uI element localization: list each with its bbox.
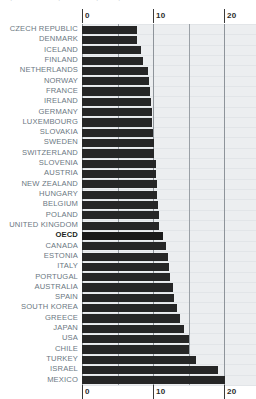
bar[interactable]	[82, 232, 163, 240]
category-label: LUXEMBOURG	[0, 117, 78, 127]
axis-tick-0: 0	[82, 9, 90, 23]
bar[interactable]	[82, 201, 158, 209]
category-label: OECD	[0, 230, 78, 240]
bar[interactable]	[82, 294, 174, 302]
category-label: USA	[0, 333, 78, 343]
category-label: JAPAN	[0, 323, 78, 333]
bar[interactable]	[82, 366, 218, 374]
bar[interactable]	[82, 356, 196, 364]
bar[interactable]	[82, 77, 149, 85]
category-label: SLOVAKIA	[0, 127, 78, 137]
bar[interactable]	[82, 335, 189, 343]
category-label: ESTONIA	[0, 251, 78, 261]
bar[interactable]	[82, 149, 154, 157]
category-label: FINLAND	[0, 55, 78, 65]
bar[interactable]	[82, 26, 137, 34]
category-label: DENMARK	[0, 34, 78, 44]
category-label: ITALY	[0, 261, 78, 271]
category-label: BELGIUM	[0, 199, 78, 209]
axis-tick-20: 20	[224, 385, 236, 399]
bar[interactable]	[82, 67, 148, 75]
category-label: SLOVENIA	[0, 158, 78, 168]
category-label: IRELAND	[0, 96, 78, 106]
bar[interactable]	[82, 87, 150, 95]
bar[interactable]	[82, 304, 177, 312]
bar[interactable]	[82, 98, 151, 106]
category-label: FRANCE	[0, 86, 78, 96]
bar[interactable]	[82, 314, 180, 322]
bar[interactable]	[82, 325, 184, 333]
axis-tick-0: 0	[82, 385, 90, 399]
axis-tick-10: 10	[153, 9, 165, 23]
category-label: PORTUGAL	[0, 272, 78, 282]
category-label: AUSTRALIA	[0, 282, 78, 292]
category-label: AUSTRIA	[0, 168, 78, 178]
bar-rows: CZECH REPUBLICDENMARKICELANDFINLANDNETHE…	[0, 24, 256, 385]
category-label: HUNGARY	[0, 189, 78, 199]
bar[interactable]	[82, 118, 152, 126]
bar[interactable]	[82, 345, 189, 353]
bar[interactable]	[82, 253, 168, 261]
bar[interactable]	[82, 222, 159, 230]
category-label: NETHERLANDS	[0, 65, 78, 75]
category-label: CZECH REPUBLIC	[0, 24, 78, 34]
bar[interactable]	[82, 191, 157, 199]
axis-tick-10: 10	[153, 385, 165, 399]
category-label: CHILE	[0, 344, 78, 354]
category-label: MEXICO	[0, 375, 78, 385]
bar[interactable]	[82, 263, 169, 271]
category-label: SOUTH KOREA	[0, 302, 78, 312]
bar[interactable]	[82, 57, 143, 65]
category-label: CANADA	[0, 241, 78, 251]
category-label: SPAIN	[0, 292, 78, 302]
title-fragment-1: ·	[10, 0, 13, 4]
category-label: ICELAND	[0, 45, 78, 55]
bar[interactable]	[82, 129, 153, 137]
bar[interactable]	[82, 46, 141, 54]
bar-chart: · · · · 01020 CZECH REPUBLICDENMARKICELA…	[0, 0, 256, 399]
axis-bottom: 01020	[0, 385, 256, 399]
bar[interactable]	[82, 273, 170, 281]
category-label: UNITED KINGDOM	[0, 220, 78, 230]
axis-top: 01020	[0, 9, 256, 24]
bar[interactable]	[82, 283, 173, 291]
axis-tick-20: 20	[224, 9, 236, 23]
bar[interactable]	[82, 160, 156, 168]
bar[interactable]	[82, 139, 154, 147]
category-label: SWITZERLAND	[0, 148, 78, 158]
title-fragment-2: ·	[58, 0, 61, 4]
category-label: GREECE	[0, 313, 78, 323]
cropped-title-sliver: · · · ·	[0, 0, 256, 9]
category-label: NEW ZEALAND	[0, 179, 78, 189]
category-label: GERMANY	[0, 107, 78, 117]
category-label: SWEDEN	[0, 137, 78, 147]
category-label: NORWAY	[0, 76, 78, 86]
bar[interactable]	[82, 180, 157, 188]
bar[interactable]	[82, 242, 166, 250]
bar[interactable]	[82, 108, 152, 116]
title-fragment-3: ·	[96, 0, 99, 4]
category-label: POLAND	[0, 210, 78, 220]
bar[interactable]	[82, 211, 159, 219]
title-fragment-4: ·	[118, 0, 121, 4]
bar[interactable]	[82, 376, 225, 384]
category-label: ISRAEL	[0, 364, 78, 374]
category-label: TURKEY	[0, 354, 78, 364]
bar[interactable]	[82, 36, 137, 44]
bar[interactable]	[82, 170, 156, 178]
